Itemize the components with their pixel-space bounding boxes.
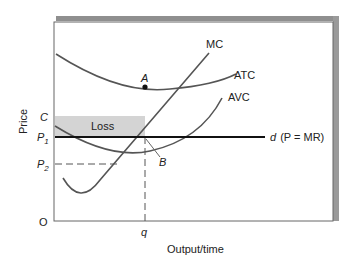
q-tick-label: q [141, 226, 148, 238]
y-axis-label: Price [17, 109, 29, 134]
point-b-label: B [159, 156, 166, 168]
mc-label: MC [206, 38, 223, 50]
avc-label: AVC [228, 91, 250, 103]
cost-curve-diagram: A B Loss MC ATC AVC d(P = MR) C P1 P2 O … [0, 0, 355, 267]
point-a-label: A [140, 72, 148, 84]
point-a-marker [142, 84, 147, 89]
frame-shadow-right [333, 16, 339, 221]
frame-shadow-top [56, 16, 339, 21]
origin-label: O [39, 216, 48, 228]
loss-label: Loss [91, 120, 115, 132]
p1-tick-label: P1 [37, 131, 49, 146]
x-axis-label: Output/time [167, 243, 224, 255]
c-tick-label: C [40, 111, 48, 123]
p2-tick-label: P2 [37, 158, 49, 173]
atc-label: ATC [234, 69, 255, 81]
